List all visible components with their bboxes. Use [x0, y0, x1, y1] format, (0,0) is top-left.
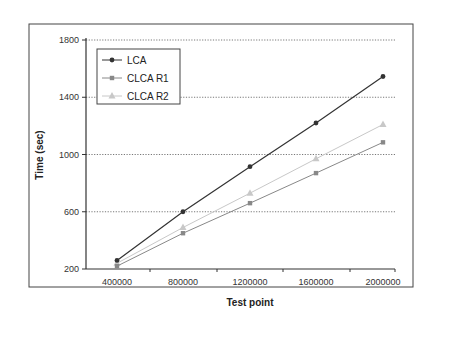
x-tick-label: 1600000 — [298, 277, 333, 287]
y-tick-label: 1400 — [59, 92, 79, 102]
diamond-marker-icon — [314, 121, 319, 126]
diamond-marker-icon — [181, 209, 186, 214]
diamond-marker-icon — [381, 74, 386, 79]
diamond-marker-icon — [115, 258, 120, 263]
square-marker-icon — [115, 264, 119, 268]
x-tick-label: 800000 — [168, 277, 198, 287]
y-tick-label: 600 — [64, 207, 79, 217]
legend-label: LCA — [127, 55, 147, 66]
x-tick-label: 2000000 — [365, 277, 400, 287]
diamond-marker-icon — [248, 164, 253, 169]
square-marker-icon — [248, 201, 252, 205]
legend-label: CLCA R2 — [127, 91, 169, 102]
x-axis-label: Test point — [226, 297, 274, 308]
legend-label: CLCA R1 — [127, 73, 169, 84]
line-chart: 200600100014001800 400000800000120000016… — [0, 0, 455, 339]
y-tick-label: 1000 — [59, 150, 79, 160]
square-marker-icon — [314, 171, 318, 175]
y-tick-label: 1800 — [59, 35, 79, 45]
y-tick-label: 200 — [64, 264, 79, 274]
legend: LCACLCA R1CLCA R2 — [97, 49, 180, 104]
x-tick-label: 1200000 — [232, 277, 267, 287]
diamond-marker-icon — [110, 58, 115, 63]
square-marker-icon — [181, 231, 185, 235]
x-tick-label: 400000 — [102, 277, 132, 287]
y-axis-label: Time (sec) — [34, 130, 45, 179]
square-marker-icon — [110, 76, 114, 80]
square-marker-icon — [381, 140, 385, 144]
